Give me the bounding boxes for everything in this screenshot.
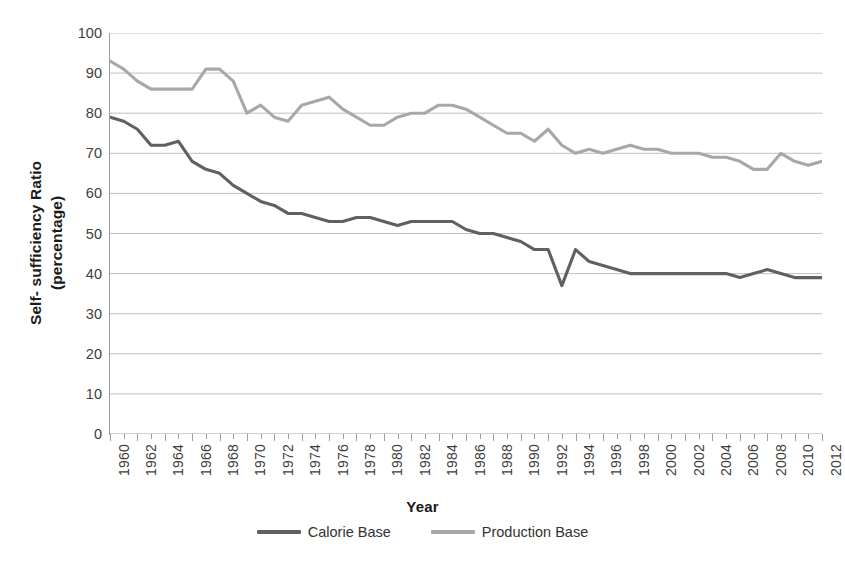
x-axis-tick-mark xyxy=(795,434,796,441)
x-axis-tick-mark xyxy=(288,434,289,439)
y-axis-tick-label: 20 xyxy=(56,346,102,362)
y-axis-title-line1: Self- sufficiency Ratio xyxy=(27,161,44,325)
chart-container: Self- sufficiency Ratio (percentage) 010… xyxy=(0,0,845,565)
legend-label: Production Base xyxy=(482,524,588,540)
x-axis-tick-mark xyxy=(767,434,768,441)
x-axis-tick-mark xyxy=(466,434,467,441)
x-axis-tick-mark xyxy=(110,434,111,441)
y-axis-tick-label: 60 xyxy=(56,185,102,201)
x-axis-tick-mark xyxy=(151,434,152,439)
legend-item[interactable]: Calorie Base xyxy=(257,524,391,540)
x-axis-tick-label: 1966 xyxy=(198,444,214,476)
x-axis-tick-label: 2008 xyxy=(773,444,789,476)
x-axis-tick-label: 1982 xyxy=(417,444,433,476)
x-axis-tick-labels: 1960196219641966196819701972197419761978… xyxy=(0,444,845,504)
x-axis-tick-label: 1994 xyxy=(581,444,597,476)
x-axis-tick-mark xyxy=(644,434,645,439)
x-axis-tick-mark xyxy=(384,434,385,441)
x-axis-tick-mark xyxy=(726,434,727,439)
series-line-calorie-base xyxy=(110,117,822,285)
y-axis-tick-label: 30 xyxy=(56,306,102,322)
x-axis-tick-mark xyxy=(576,434,577,441)
x-axis-tick-mark xyxy=(548,434,549,441)
x-axis-tick-mark xyxy=(329,434,330,441)
x-axis-tick-label: 1998 xyxy=(636,444,652,476)
x-axis-tick-mark xyxy=(493,434,494,441)
x-axis-tick-label: 2012 xyxy=(828,444,844,476)
x-axis-tick-mark xyxy=(480,434,481,439)
x-axis-tick-label: 1968 xyxy=(225,444,241,476)
x-axis-tick-mark xyxy=(356,434,357,441)
x-axis-tick-mark xyxy=(507,434,508,439)
x-axis-tick-label: 1990 xyxy=(526,444,542,476)
x-axis-tick-mark xyxy=(370,434,371,439)
x-axis-tick-mark xyxy=(589,434,590,439)
chart-legend: Calorie BaseProduction Base xyxy=(0,524,845,540)
x-axis-tick-label: 1978 xyxy=(362,444,378,476)
x-axis-tick-mark xyxy=(165,434,166,441)
x-axis-tick-mark xyxy=(343,434,344,439)
x-axis-tick-mark xyxy=(822,434,823,441)
x-axis-tick-mark xyxy=(220,434,221,441)
x-axis-tick-mark xyxy=(124,434,125,439)
x-axis-tick-mark xyxy=(781,434,782,439)
x-axis-tick-mark xyxy=(425,434,426,439)
x-axis-tick-mark xyxy=(137,434,138,441)
legend-swatch-icon xyxy=(431,530,475,533)
x-axis-tick-mark xyxy=(562,434,563,439)
x-axis-tick-mark xyxy=(439,434,440,441)
x-axis-tick-mark xyxy=(658,434,659,441)
x-axis-tick-mark xyxy=(617,434,618,439)
x-axis-tick-label: 1962 xyxy=(143,444,159,476)
x-axis-tick-label: 1960 xyxy=(116,444,132,476)
x-axis-tick-mark xyxy=(808,434,809,439)
x-axis-tick-label: 1992 xyxy=(554,444,570,476)
y-axis-tick-label: 0 xyxy=(56,426,102,442)
x-axis-tick-mark xyxy=(699,434,700,439)
y-axis-tick-label: 40 xyxy=(56,266,102,282)
x-axis-tick-mark xyxy=(192,434,193,441)
legend-label: Calorie Base xyxy=(308,524,391,540)
x-axis-tick-mark xyxy=(671,434,672,439)
x-axis-tick-label: 1980 xyxy=(389,444,405,476)
x-axis-tick-mark xyxy=(411,434,412,441)
plot-svg xyxy=(110,33,822,434)
x-axis-tick-mark xyxy=(315,434,316,439)
x-axis-tick-mark xyxy=(685,434,686,441)
x-axis-tick-label: 2010 xyxy=(800,444,816,476)
x-axis-tick-label: 2000 xyxy=(663,444,679,476)
x-axis-tick-mark xyxy=(302,434,303,441)
x-axis-tick-label: 1986 xyxy=(472,444,488,476)
x-axis-tick-label: 1970 xyxy=(252,444,268,476)
y-axis-tick-label: 10 xyxy=(56,386,102,402)
x-axis-tick-label: 1964 xyxy=(170,444,186,476)
legend-item[interactable]: Production Base xyxy=(431,524,588,540)
y-axis-tick-label: 80 xyxy=(56,105,102,121)
x-axis-tick-mark xyxy=(206,434,207,439)
legend-swatch-icon xyxy=(257,530,301,533)
x-axis-title: Year xyxy=(0,498,845,515)
x-axis-tick-mark xyxy=(740,434,741,441)
x-axis-tick-mark xyxy=(274,434,275,441)
x-axis-tick-label: 1996 xyxy=(608,444,624,476)
x-axis-tick-mark xyxy=(178,434,179,439)
x-axis-tick-label: 2002 xyxy=(691,444,707,476)
x-axis-tick-mark xyxy=(398,434,399,439)
x-axis-tick-mark xyxy=(247,434,248,441)
y-axis-tick-label: 90 xyxy=(56,65,102,81)
x-axis-tick-label: 1972 xyxy=(280,444,296,476)
x-axis-tick-mark xyxy=(261,434,262,439)
x-axis-tick-mark xyxy=(603,434,604,441)
x-axis-tick-mark xyxy=(233,434,234,439)
x-axis-tick-mark xyxy=(521,434,522,441)
x-axis-tick-mark xyxy=(630,434,631,441)
x-axis-tick-label: 2004 xyxy=(718,444,734,476)
x-axis-tick-mark xyxy=(452,434,453,439)
x-axis-tick-label: 1984 xyxy=(444,444,460,476)
x-axis-tick-label: 1974 xyxy=(307,444,323,476)
plot-area xyxy=(110,33,822,434)
x-axis-tick-mark xyxy=(754,434,755,439)
y-axis-tick-label: 100 xyxy=(56,25,102,41)
x-axis-tick-mark xyxy=(712,434,713,441)
x-axis-tick-label: 1988 xyxy=(499,444,515,476)
